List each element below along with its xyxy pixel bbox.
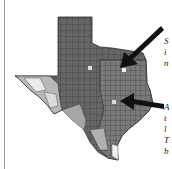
texas-county-map (0, 0, 172, 169)
annotation-top: Sin (164, 14, 169, 80)
annotation-bottom: AtlTb (164, 80, 170, 168)
